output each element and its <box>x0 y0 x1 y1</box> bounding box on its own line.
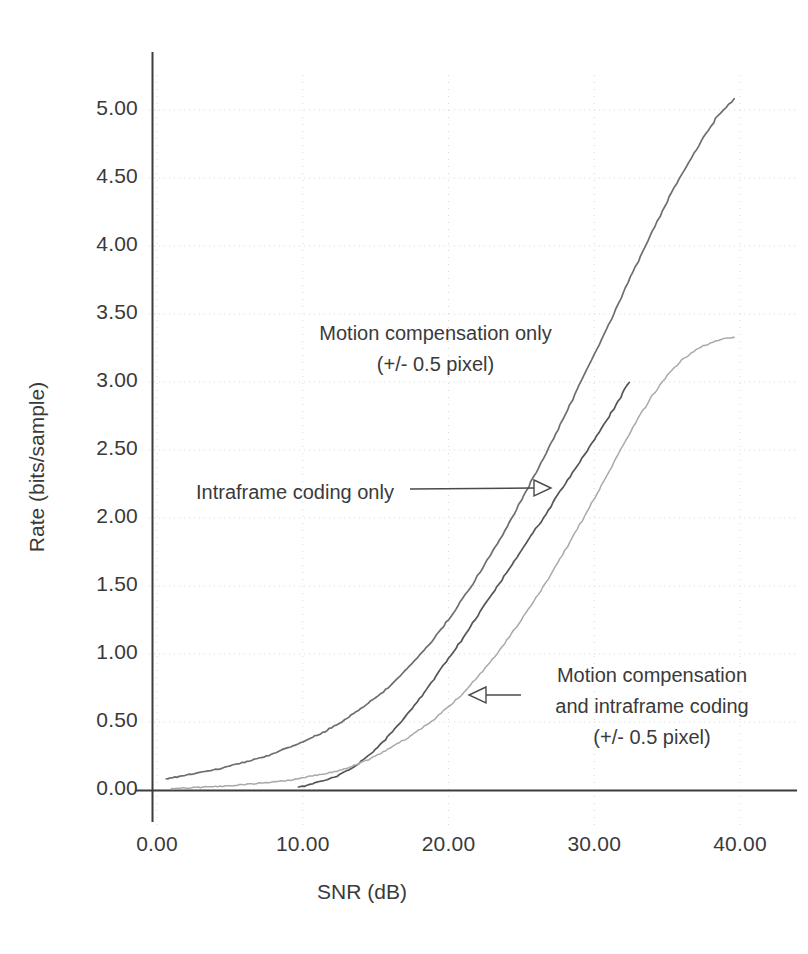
annotation-mc-only-line2: (+/- 0.5 pixel) <box>298 349 573 380</box>
x-tick-label: 0.00 <box>97 832 217 856</box>
rate-vs-snr-chart: 5.004.504.003.503.002.502.001.501.000.50… <box>0 0 808 954</box>
annotation-motion-compensation-and-intraframe: Motion compensation and intraframe codin… <box>527 660 777 753</box>
y-tick-label: 1.00 <box>40 640 138 664</box>
x-tick-label: 40.00 <box>680 832 800 856</box>
y-axis-title-wrapper: Rate (bits/sample) <box>25 367 49 567</box>
y-tick-label: 0.00 <box>40 776 138 800</box>
annotation-intraframe-coding-only: Intraframe coding only <box>196 477 446 508</box>
annotation-mc-intra-line3: (+/- 0.5 pixel) <box>527 722 777 753</box>
arrowhead-right-intraframe <box>534 480 551 496</box>
annotation-mc-only-line1: Motion compensation only <box>298 318 573 349</box>
annotation-mc-intra-line2: and intraframe coding <box>527 691 777 722</box>
y-tick-label: 2.50 <box>40 436 138 460</box>
y-axis-title: Rate (bits/sample) <box>25 382 49 552</box>
x-tick-label: 20.00 <box>389 832 509 856</box>
y-tick-label: 3.00 <box>40 368 138 392</box>
arrowhead-left-mc-intraframe <box>469 687 486 703</box>
x-axis-title: SNR (dB) <box>282 880 442 904</box>
y-tick-label: 4.50 <box>40 164 138 188</box>
y-tick-label: 2.00 <box>40 504 138 528</box>
x-tick-label: 30.00 <box>534 832 654 856</box>
y-tick-label: 3.50 <box>40 300 138 324</box>
y-tick-label: 5.00 <box>40 96 138 120</box>
annotation-motion-compensation-only: Motion compensation only (+/- 0.5 pixel) <box>298 318 573 380</box>
y-tick-label: 1.50 <box>40 572 138 596</box>
y-tick-label: 4.00 <box>40 232 138 256</box>
annotation-mc-intra-line1: Motion compensation <box>527 660 777 691</box>
x-tick-label: 10.00 <box>243 832 363 856</box>
y-tick-label: 0.50 <box>40 708 138 732</box>
